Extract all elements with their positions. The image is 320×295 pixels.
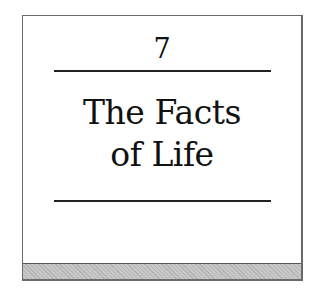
top-divider bbox=[54, 70, 271, 72]
bottom-divider bbox=[54, 200, 271, 202]
chapter-title: The Facts of Life bbox=[23, 92, 301, 176]
chapter-title-card: 7 The Facts of Life bbox=[22, 15, 303, 281]
chapter-title-line-1: The Facts bbox=[23, 92, 301, 134]
chapter-title-line-2: of Life bbox=[23, 134, 301, 176]
chapter-number: 7 bbox=[23, 34, 301, 64]
gray-footer-band bbox=[23, 263, 301, 279]
